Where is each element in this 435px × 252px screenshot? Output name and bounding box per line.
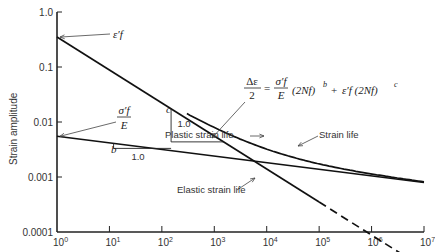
sf-arrow — [60, 122, 116, 136]
eq-equals: = — [264, 82, 270, 94]
eq-t1-num: σ′f — [276, 75, 289, 87]
y-tick-label: 0.1 — [39, 62, 53, 73]
eq-t1-den: E — [277, 89, 285, 101]
x-tick-label: 103 — [210, 236, 225, 248]
annotations — [60, 34, 318, 190]
eq-t2-body: ε′f (2Nf) — [342, 84, 378, 97]
sf-label-num: σ′f — [119, 104, 132, 116]
axes: 1.00.10.010.0010.00011001011021031041051… — [22, 7, 435, 249]
eq-lhs-den: 2 — [249, 89, 255, 101]
strain-life-arrow — [298, 136, 318, 146]
sf-label-den: E — [120, 119, 128, 131]
x-tick-label: 100 — [53, 236, 68, 248]
x-tick-label: 101 — [105, 236, 120, 248]
eq-plus: + — [331, 84, 337, 96]
y-axis-label: Strain amplitude — [8, 92, 19, 165]
y-tick-label: 0.001 — [28, 172, 53, 183]
run-c-label: 1.0 — [177, 118, 190, 129]
x-tick-label: 104 — [263, 236, 278, 248]
strain-life-chart: 1.00.10.010.0010.00011001011021031041051… — [0, 0, 435, 252]
slope-b-label: b — [111, 143, 117, 155]
x-tick-label: 105 — [315, 236, 330, 248]
ef-label: ε′f — [113, 28, 125, 40]
total-strain-life-curve — [187, 114, 424, 182]
ef-arrow — [60, 34, 110, 37]
x-tick-label: 102 — [158, 236, 173, 248]
y-tick-label: 0.01 — [34, 117, 54, 128]
run-b-label: 1.0 — [131, 151, 144, 162]
y-tick-label: 1.0 — [39, 7, 53, 18]
elastic-strain-label: Elastic strain life — [177, 184, 246, 195]
eq-lhs-num: Δε — [246, 75, 258, 87]
eq-t1-body: (2Nf) — [292, 84, 316, 97]
strain-life-equation: Δε 2 = σ′f E (2Nf) b + ε′f (2Nf) c — [244, 75, 398, 101]
plastic-strain-label: Plastic strain life — [165, 129, 234, 140]
eq-t2-exp: c — [394, 80, 398, 89]
y-tick-label: 0.0001 — [22, 227, 53, 238]
slope-c-label: c — [166, 103, 171, 115]
x-tick-label: 107 — [420, 236, 435, 248]
eq-t1-exp: b — [323, 80, 327, 89]
strain-life-label: Strain life — [319, 129, 359, 140]
